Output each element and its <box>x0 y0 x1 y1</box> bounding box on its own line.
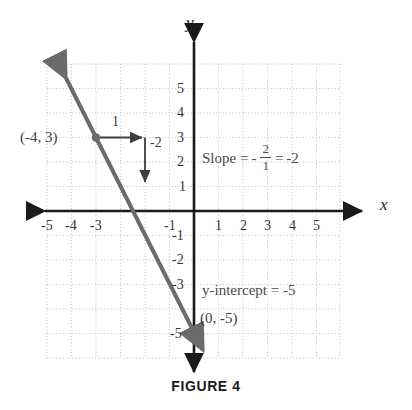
y-tick-neg-5: -5 <box>170 327 182 341</box>
slope-value: -2 <box>286 151 299 166</box>
point-marker-upper <box>92 133 101 142</box>
slope-sign: - <box>251 151 256 166</box>
point-label-upper: (-4, 3) <box>20 130 58 145</box>
y-tick-neg-3: -3 <box>172 278 184 292</box>
intercept-annotation: y-intercept = -5 <box>202 283 295 298</box>
slope-annotation: Slope = - 2 1 = -2 <box>202 143 299 173</box>
point-marker-lower <box>190 329 199 338</box>
coordinate-graph <box>0 0 412 410</box>
y-tick-neg-2: -2 <box>172 253 184 267</box>
y-tick-pos-4: 4 <box>177 106 184 120</box>
x-tick-neg-5: -5 <box>41 219 53 233</box>
slope-denominator: 1 <box>260 159 271 173</box>
y-tick-pos-3: 3 <box>177 131 184 145</box>
x-tick-pos-5: 5 <box>313 219 320 233</box>
figure-caption: FIGURE 4 <box>0 378 412 394</box>
x-tick-neg-3: -3 <box>90 219 102 233</box>
slope-equals: = <box>275 151 283 166</box>
slope-fraction: 2 1 <box>260 142 271 172</box>
y-tick-pos-2: 2 <box>177 155 184 169</box>
slope-prefix: Slope = <box>202 151 248 166</box>
x-tick-pos-4: 4 <box>289 219 296 233</box>
figure-container: y x -5 -4 -3 -1 1 2 3 4 5 5 4 3 2 1 -1 -… <box>0 0 412 410</box>
x-tick-pos-1: 1 <box>215 219 222 233</box>
run-label: 1 <box>112 115 119 129</box>
x-tick-pos-3: 3 <box>264 219 271 233</box>
rise-label: -2 <box>150 136 162 150</box>
slope-numerator: 2 <box>260 142 271 156</box>
x-tick-neg-4: -4 <box>65 219 77 233</box>
y-tick-pos-5: 5 <box>177 82 184 96</box>
y-axis-label: y <box>186 14 194 31</box>
x-axis-label: x <box>380 196 388 213</box>
point-label-lower: (0, -5) <box>200 311 238 326</box>
y-tick-pos-1: 1 <box>179 180 186 194</box>
x-tick-pos-2: 2 <box>240 219 247 233</box>
y-tick-neg-1: -1 <box>172 229 184 243</box>
